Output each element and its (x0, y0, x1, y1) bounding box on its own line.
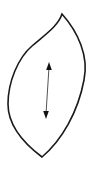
leaf-diagram-svg (0, 0, 95, 176)
dimension-arrow-head-bottom (43, 111, 49, 119)
dimension-arrow-shaft (46, 67, 49, 114)
figure-container (0, 0, 95, 176)
dimension-arrow-head-top (46, 62, 52, 70)
leaf-outline-path (8, 14, 85, 157)
